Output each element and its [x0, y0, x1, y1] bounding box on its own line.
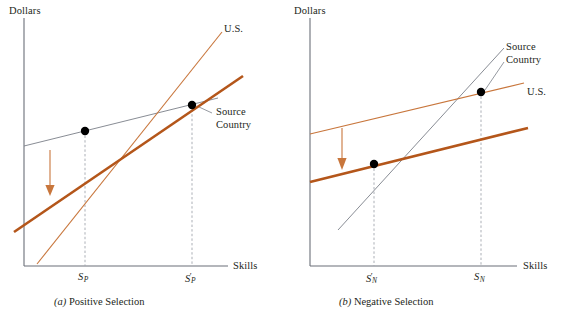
caption-text: Positive Selection	[69, 296, 145, 307]
equilibrium-point-sn-prime	[370, 160, 378, 168]
tick-subscript: N	[372, 276, 377, 285]
us-line-shifted	[14, 76, 243, 232]
caption-marker: (b)	[339, 296, 351, 307]
series-label-source-country-line2: Country	[216, 118, 251, 131]
x-axis-label: Skills	[523, 259, 548, 272]
tick-base: S	[474, 271, 479, 282]
series-label-source-country-line1: Source	[506, 40, 536, 53]
panel-a-caption: (a) Positive Selection	[54, 296, 144, 307]
y-axis-label: Dollars	[9, 4, 41, 17]
tick-subscript: P	[84, 275, 89, 284]
us-line-shifted	[310, 128, 528, 182]
equilibrium-point-sn	[477, 88, 485, 96]
tick-subscript: P	[191, 276, 196, 285]
shift-arrow-down	[45, 150, 54, 196]
shift-arrow-down	[337, 128, 346, 170]
series-label-source-country-line1: Source	[216, 105, 246, 118]
series-label-source-country-line2: Country	[506, 53, 541, 66]
series-label-us: U.S.	[527, 85, 546, 98]
tick-label-sp: SP	[78, 270, 88, 286]
panel-positive-selection: Dollars Skills U.S. Source Country SP S′…	[0, 0, 281, 321]
y-axis-label: Dollars	[294, 4, 326, 17]
equilibrium-point-sp-prime	[188, 101, 196, 109]
caption-text: Negative Selection	[354, 296, 434, 307]
tick-label-sn-prime: S′N	[366, 270, 377, 287]
panel-negative-selection: Dollars Skills Source Country U.S. S′N S…	[282, 0, 563, 321]
tick-label-sp-prime: S′P	[185, 270, 196, 287]
figure-positive-negative-selection: Dollars Skills U.S. Source Country SP S′…	[0, 0, 563, 321]
panel-b-caption: (b) Negative Selection	[339, 296, 433, 307]
tick-subscript: N	[480, 275, 485, 284]
x-axis-label: Skills	[233, 259, 258, 272]
source-country-leader-line	[199, 107, 212, 113]
series-label-us: U.S.	[224, 22, 243, 35]
equilibrium-point-sp	[81, 127, 89, 135]
caption-marker: (a)	[54, 296, 66, 307]
us-line	[310, 83, 524, 134]
tick-label-sn: SN	[474, 270, 485, 286]
tick-base: S	[78, 271, 83, 282]
panel-a-plot	[0, 0, 281, 321]
us-line	[37, 32, 222, 264]
